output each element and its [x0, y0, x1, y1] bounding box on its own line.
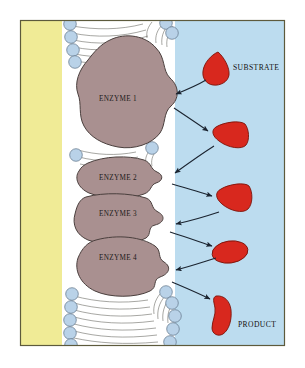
enzyme-3-label: ENZYME 3 [99, 210, 137, 218]
product-label: PRODUCT [238, 320, 276, 329]
substrate-label: SUBSTRATE [233, 63, 279, 72]
enzyme-2-label: ENZYME 2 [99, 174, 137, 182]
enzyme-1-label: ENZYME 1 [99, 95, 137, 103]
enzyme-cascade-figure: ENZYME 1 ENZYME 2 ENZYME 3 ENZYME 4 [0, 0, 305, 368]
diagram-canvas: ENZYME 1 ENZYME 2 ENZYME 3 ENZYME 4 [0, 0, 305, 368]
enzyme-4-label: ENZYME 4 [99, 254, 137, 262]
